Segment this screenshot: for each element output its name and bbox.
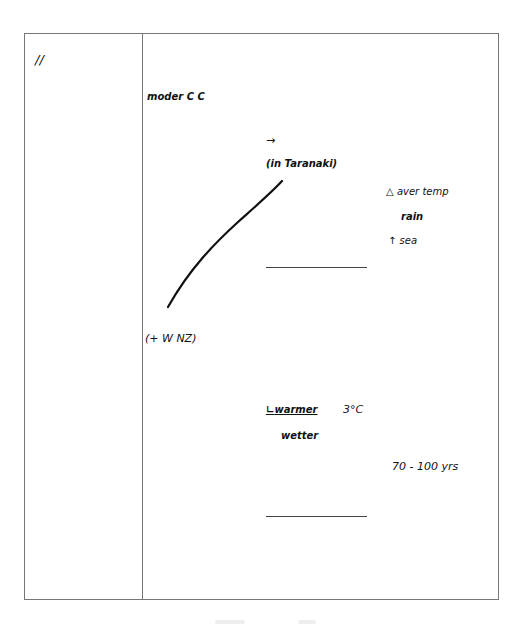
wetter-text: wetter [281,430,318,441]
separator-line-2 [266,516,367,517]
warmer-text: warmer [274,404,317,415]
region-text: (+ W NZ) [145,332,196,345]
separator-line [266,267,367,268]
delta-icon: △ [386,186,394,197]
sea-text: sea [400,235,418,246]
aver-temp-text: aver temp [397,186,449,197]
page-footer-mark [215,620,245,624]
trend-curve [0,0,527,630]
timeframe-text: 70 - 100 yrs [392,460,458,473]
rain-text: rain [401,211,423,222]
page-footer-mark-2 [298,620,316,624]
degrees-text: 3°C [343,403,363,416]
up-arrow-icon: ↑ [388,235,396,246]
